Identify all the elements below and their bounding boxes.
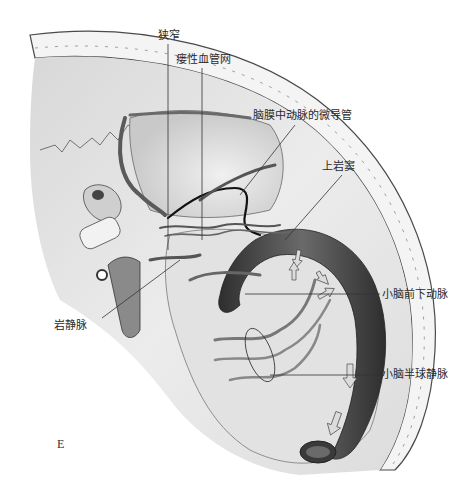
label-stenosis: 狭窄: [158, 30, 180, 42]
label-fistula-network: 瘘性血管网: [176, 54, 231, 66]
label-aica: 小脑前下动脉: [382, 289, 448, 301]
label-mma-microcatheter: 脑膜中动脉的微导管: [253, 110, 352, 122]
illustration-drawing: [0, 0, 475, 485]
label-cerebellar-hemispheric-vein: 小脑半球静脉: [382, 369, 448, 381]
label-petrosal-vein: 岩静脉: [54, 320, 87, 332]
panel-letter: E: [57, 437, 64, 452]
label-superior-petrosal-sinus: 上岩窦: [322, 161, 355, 173]
middle-cranial-fossa: [130, 111, 284, 218]
anatomical-illustration: 狭窄 瘘性血管网 脑膜中动脉的微导管 上岩窦 小脑前下动脉 岩静脉 小脑半球静脉…: [0, 0, 475, 485]
